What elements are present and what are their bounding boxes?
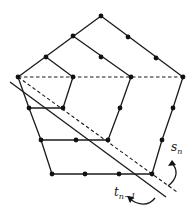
pentagon-sides xyxy=(18,77,183,174)
nodes xyxy=(16,14,186,177)
t-line xyxy=(10,82,166,197)
s-arrow-icon xyxy=(168,160,176,186)
lattice-diagram: sn tn−1 xyxy=(0,0,192,216)
upper-lattice-edges xyxy=(18,16,183,77)
t-label: tn−1 xyxy=(114,185,136,201)
s-label: sn xyxy=(171,140,182,156)
